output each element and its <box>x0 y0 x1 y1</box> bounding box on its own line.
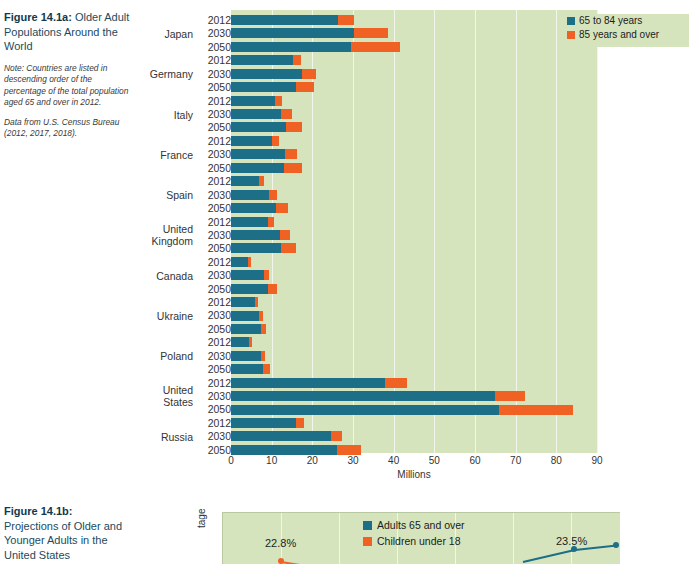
bar-row <box>231 390 597 403</box>
bar-segment-65-to-84 <box>231 297 255 307</box>
y-axis-group: Spain201220302050 <box>137 175 231 215</box>
bar-row <box>231 256 597 269</box>
bar-row-wrap <box>231 350 597 363</box>
bar-row-wrap <box>231 108 597 121</box>
bar-row <box>231 121 597 134</box>
x-axis-tick: 60 <box>469 455 480 466</box>
country-label: Ukraine <box>101 296 193 336</box>
chart-b-annotation-left: 22.8% <box>265 537 296 549</box>
year-label: 2050 <box>201 242 231 254</box>
chart-b-data-point-adults <box>571 546 577 552</box>
chart-a-legend: 65 to 84 years 85 years and over <box>564 14 689 47</box>
bar-segment-65-to-84 <box>231 311 259 321</box>
year-label: 2012 <box>201 256 231 268</box>
gridline <box>513 513 514 564</box>
gridline <box>339 513 340 564</box>
x-axis-tick: 30 <box>347 455 358 466</box>
figure-14-1b: Figure 14.1b: Projections of Older and Y… <box>0 498 620 564</box>
year-label: 2030 <box>201 27 231 39</box>
legend-item-65-to-84: 65 to 84 years <box>567 15 642 26</box>
bar-row <box>231 296 597 309</box>
bar-segment-85-and-over <box>281 109 293 119</box>
bar-segment-65-to-84 <box>231 163 284 173</box>
bar-segment-85-and-over <box>499 405 572 415</box>
country-label: UnitedKingdom <box>101 223 193 248</box>
bar-segment-85-and-over <box>255 297 257 307</box>
bar-segment-85-and-over <box>284 163 302 173</box>
figure-a-caption-label: Figure 14.1a: <box>4 11 72 23</box>
bar-row <box>231 189 597 202</box>
bar-row <box>231 135 597 148</box>
bar-row <box>231 377 597 390</box>
bar-segment-65-to-84 <box>231 270 264 280</box>
bar-row <box>231 14 597 27</box>
x-axis-tick: 0 <box>228 455 234 466</box>
bar-row-wrap <box>231 283 597 296</box>
year-label: 2030 <box>201 189 231 201</box>
bar-segment-85-and-over <box>331 431 342 441</box>
y-axis-group: Japan201220302050 <box>137 14 231 54</box>
bar-segment-85-and-over <box>272 136 280 146</box>
bar-segment-85-and-over <box>249 337 251 347</box>
country-label: Russia <box>101 417 193 457</box>
bar-segment-85-and-over <box>259 311 263 321</box>
country-label: Spain <box>101 175 193 215</box>
bar-row-wrap <box>231 162 597 175</box>
country-label: France <box>101 135 193 175</box>
chart-a: Japan201220302050Germany201220302050Ital… <box>137 10 607 480</box>
bar-segment-65-to-84 <box>231 337 249 347</box>
bar-segment-85-and-over <box>248 257 251 267</box>
bar-segment-85-and-over <box>296 82 313 92</box>
bar-row <box>231 417 597 430</box>
country-label: UnitedStates <box>101 384 193 409</box>
x-axis-tick: 20 <box>307 455 318 466</box>
year-label: 2030 <box>201 269 231 281</box>
year-label: 2030 <box>201 108 231 120</box>
bar-segment-85-and-over <box>261 351 265 361</box>
legend-swatch-85-and-over <box>567 31 575 39</box>
y-axis-group: Russia201220302050 <box>137 417 231 457</box>
country-label: Italy <box>101 95 193 135</box>
x-axis-tick: 10 <box>266 455 277 466</box>
legend-label-85-and-over: 85 years and over <box>579 29 659 40</box>
chart-b-annotation-right: 23.5% <box>556 535 587 547</box>
year-label: 2012 <box>201 377 231 389</box>
figure-b-caption-text: Projections of Older and Younger Adults … <box>4 519 134 563</box>
legend-item-85-and-over: 85 years and over <box>567 29 659 40</box>
bar-segment-85-and-over <box>338 15 354 25</box>
year-label: 2012 <box>201 216 231 228</box>
bar-segment-85-and-over <box>276 203 288 213</box>
bar-segment-65-to-84 <box>231 230 280 240</box>
legend-label-adults-65-and-over: Adults 65 and over <box>377 519 465 531</box>
bar-row <box>231 202 597 215</box>
bar-segment-65-to-84 <box>231 149 285 159</box>
country-label: Poland <box>101 336 193 376</box>
year-label: 2050 <box>201 363 231 375</box>
bar-segment-85-and-over <box>285 149 297 159</box>
figure-b-caption-title: Figure 14.1b: Projections of Older and Y… <box>4 504 134 562</box>
year-label: 2050 <box>201 444 231 456</box>
bar-segment-65-to-84 <box>231 28 354 38</box>
bar-row-wrap <box>231 54 597 67</box>
chart-a-x-axis: Millions 0102030405060708090 <box>231 453 597 483</box>
year-label: 2030 <box>201 309 231 321</box>
bar-row <box>231 27 597 40</box>
year-label: 2030 <box>201 350 231 362</box>
bar-row-wrap <box>231 256 597 269</box>
bar-segment-85-and-over <box>354 28 388 38</box>
bar-row <box>231 54 597 67</box>
bar-segment-85-and-over <box>259 176 264 186</box>
bar-row-wrap <box>231 390 597 403</box>
country-label: Germany <box>101 54 193 94</box>
bar-row-wrap <box>231 189 597 202</box>
bar-segment-85-and-over <box>385 378 408 388</box>
bar-segment-85-and-over <box>275 96 282 106</box>
year-label: 2030 <box>201 430 231 442</box>
bar-segment-65-to-84 <box>231 15 338 25</box>
bar-segment-65-to-84 <box>231 190 269 200</box>
bar-row-wrap <box>231 202 597 215</box>
bar-segment-65-to-84 <box>231 42 351 52</box>
y-axis-group: Germany201220302050 <box>137 54 231 94</box>
bar-row-wrap <box>231 95 597 108</box>
bar-segment-85-and-over <box>302 69 315 79</box>
